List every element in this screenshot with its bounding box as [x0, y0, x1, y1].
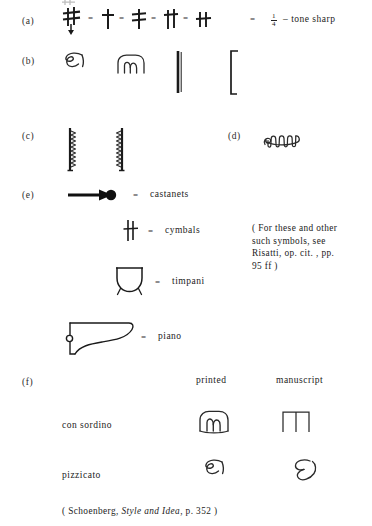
pizzicato-manuscript-curl-icon — [61, 51, 87, 77]
equals-sign-a-result: = — [250, 14, 255, 24]
term-pizzicato: pizzicato — [62, 470, 101, 480]
row-label-e: (e) — [22, 190, 34, 200]
timpani-label: timpani — [172, 276, 205, 286]
row-label-c: (c) — [22, 131, 34, 141]
citation-close: , p. 352 ) — [180, 506, 217, 516]
equals-sign-a3: = — [151, 13, 156, 23]
column-header-manuscript: manuscript — [276, 375, 323, 385]
piano-glyph-icon — [66, 320, 136, 358]
term-con-sordino: con sordino — [62, 420, 112, 430]
equals-sign-a4: = — [183, 13, 188, 23]
citation-title: Style and Idea — [121, 506, 180, 516]
quarter-tone-sharp-variant-2-icon — [101, 8, 115, 32]
castanets-glyph-icon — [66, 187, 120, 203]
quarter-tone-sharp-variant-5-icon — [195, 10, 213, 32]
quarter-tone-sharp-text: – tone sharp — [283, 14, 335, 24]
equals-sign-a2: = — [119, 13, 124, 23]
row-label-b: (b) — [22, 56, 35, 66]
piano-label: piano — [158, 331, 182, 341]
thick-vertical-bar-icon — [175, 50, 185, 95]
figure-page: (a) = = = = = — [0, 0, 372, 526]
pizzicato-printed-curl-icon — [201, 458, 227, 484]
quarter-tone-sharp-variant-3-icon — [131, 8, 147, 32]
cymbals-label: cymbals — [165, 225, 200, 235]
con-sordino-manuscript-bracket-icon — [281, 410, 311, 434]
equals-sign-castanets: = — [133, 190, 138, 200]
quarter-tone-sharp-variant-1-icon — [62, 6, 82, 36]
source-citation: ( Schoenberg, Style and Idea, p. 352 ) — [62, 506, 217, 516]
row-label-a: (a) — [22, 16, 34, 26]
cymbals-glyph-icon — [122, 219, 140, 243]
equals-sign-a1: = — [88, 13, 93, 23]
quarter-fraction: 1 4 — [271, 11, 277, 29]
pizzicato-manuscript-epsilon-icon — [292, 458, 320, 484]
con-sordino-printed-arc-icon — [198, 410, 230, 434]
con-sordino-printed-arc-icon — [116, 54, 146, 76]
equals-sign-timpani: = — [155, 277, 160, 287]
zigzag-bar-right-icon — [112, 127, 128, 173]
zigzag-bar-left-icon — [66, 127, 82, 173]
wavy-mute-squiggle-icon — [262, 128, 306, 152]
row-label-d: (d) — [228, 131, 241, 141]
risatti-aside-note: ( For these and other such symbols, see … — [252, 222, 370, 272]
timpani-glyph-icon — [113, 266, 147, 296]
fraction-denominator: 4 — [271, 20, 277, 29]
equals-sign-cymbals: = — [148, 226, 153, 236]
castanets-label: castanets — [150, 189, 189, 199]
equals-sign-piano: = — [141, 332, 146, 342]
quarter-tone-sharp-variant-4-icon — [163, 8, 179, 32]
citation-open: ( Schoenberg, — [62, 506, 121, 516]
fraction-numerator: 1 — [271, 13, 277, 21]
column-header-printed: printed — [196, 375, 226, 385]
row-label-f: (f) — [22, 377, 33, 387]
open-bracket-icon — [228, 50, 242, 96]
